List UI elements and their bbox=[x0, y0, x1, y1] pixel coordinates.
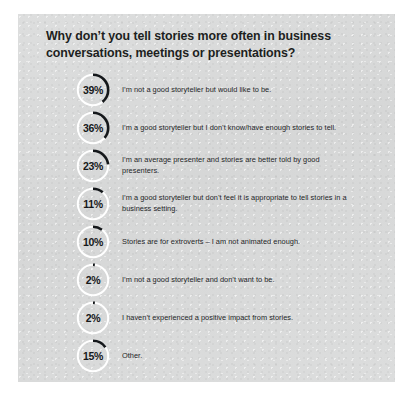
answer-text: I’m a good storyteller but don’t feel it… bbox=[122, 193, 358, 214]
donut-chart: 2% bbox=[74, 261, 112, 299]
answer-text: I’m not a good storyteller but would lik… bbox=[122, 85, 358, 96]
percentage-label: 39% bbox=[74, 71, 112, 109]
answer-text: I’m an average presenter and stories are… bbox=[122, 155, 358, 176]
percentage-label: 2% bbox=[74, 261, 112, 299]
donut-chart: 23% bbox=[74, 147, 112, 185]
answer-text: Stories are for extroverts – I am not an… bbox=[122, 237, 358, 248]
survey-result-row: 2%I’m not a good storyteller and don’t w… bbox=[18, 261, 395, 299]
survey-result-row: 11%I’m a good storyteller but don’t feel… bbox=[18, 185, 395, 223]
infographic-card: Why don’t you tell stories more often in… bbox=[18, 14, 395, 382]
donut-chart: 39% bbox=[74, 71, 112, 109]
donut-chart: 11% bbox=[74, 185, 112, 223]
survey-results-list: 39%I’m not a good storyteller but would … bbox=[18, 71, 395, 375]
percentage-label: 15% bbox=[74, 337, 112, 375]
survey-result-row: 2%I haven’t experienced a positive impac… bbox=[18, 299, 395, 337]
percentage-label: 23% bbox=[74, 147, 112, 185]
survey-result-row: 36%I’m a good storyteller but I don’t kn… bbox=[18, 109, 395, 147]
survey-result-row: 23%I’m an average presenter and stories … bbox=[18, 147, 395, 185]
donut-chart: 15% bbox=[74, 337, 112, 375]
answer-text: Other. bbox=[122, 351, 358, 362]
percentage-label: 11% bbox=[74, 185, 112, 223]
donut-chart: 10% bbox=[74, 223, 112, 261]
survey-result-row: 39%I’m not a good storyteller but would … bbox=[18, 71, 395, 109]
percentage-label: 10% bbox=[74, 223, 112, 261]
answer-text: I’m a good storyteller but I don’t know/… bbox=[122, 123, 358, 134]
percentage-label: 2% bbox=[74, 299, 112, 337]
answer-text: I’m not a good storyteller and don’t wan… bbox=[122, 275, 358, 286]
donut-chart: 2% bbox=[74, 299, 112, 337]
survey-result-row: 10%Stories are for extroverts – I am not… bbox=[18, 223, 395, 261]
answer-text: I haven’t experienced a positive impact … bbox=[122, 313, 358, 324]
page-title: Why don’t you tell stories more often in… bbox=[46, 28, 376, 61]
donut-chart: 36% bbox=[74, 109, 112, 147]
survey-result-row: 15%Other. bbox=[18, 337, 395, 375]
card-inner: Why don’t you tell stories more often in… bbox=[18, 14, 395, 382]
percentage-label: 36% bbox=[74, 109, 112, 147]
